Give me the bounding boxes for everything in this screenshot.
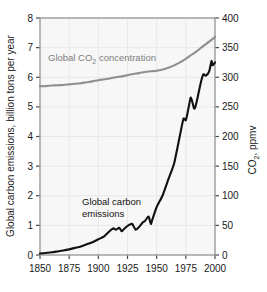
left-tick-label: 2 bbox=[27, 190, 33, 201]
left-tick-label: 8 bbox=[27, 13, 33, 24]
left-tick-label: 0 bbox=[27, 250, 33, 261]
x-tick-label: 1950 bbox=[146, 263, 169, 274]
right-axis-title: CO2, ppmv bbox=[247, 126, 260, 175]
right-tick-label: 250 bbox=[222, 101, 239, 112]
x-tick-label: 1900 bbox=[87, 263, 110, 274]
left-tick-label: 7 bbox=[27, 42, 33, 53]
right-axis-title-main: CO bbox=[247, 159, 258, 174]
x-tick-label: 1925 bbox=[116, 263, 139, 274]
right-tick-label: 200 bbox=[222, 131, 239, 142]
x-tick-label: 1850 bbox=[29, 263, 52, 274]
right-tick-label: 300 bbox=[222, 72, 239, 83]
emissions-annotation-line2: emissions bbox=[82, 208, 124, 219]
x-tick-label: 1975 bbox=[175, 263, 198, 274]
left-tick-label: 3 bbox=[27, 161, 33, 172]
left-tick-label: 6 bbox=[27, 72, 33, 83]
co2-annotation-main: Global CO bbox=[48, 52, 92, 63]
right-tick-label: 150 bbox=[222, 161, 239, 172]
x-tick-label: 2000 bbox=[204, 263, 227, 274]
right-axis-title-tail: , ppmv bbox=[247, 126, 258, 156]
emissions-annotation-line1: Global carbon bbox=[82, 196, 141, 207]
right-tick-label: 0 bbox=[222, 250, 228, 261]
co2-concentration-annotation: Global CO2 concentration bbox=[48, 52, 156, 65]
left-axis-title: Global carbon emissions, billion tons pe… bbox=[5, 34, 16, 236]
right-tick-label: 50 bbox=[222, 220, 234, 231]
right-tick-label: 400 bbox=[222, 13, 239, 24]
left-tick-label: 4 bbox=[27, 131, 33, 142]
co2-annotation-tail: concentration bbox=[96, 52, 156, 63]
chart-figure: 012345678 050100150200250300350400 18501… bbox=[0, 0, 267, 292]
left-tick-label: 5 bbox=[27, 101, 33, 112]
co2-emissions-line-chart: 012345678 050100150200250300350400 18501… bbox=[0, 0, 267, 292]
x-tick-label: 1875 bbox=[58, 263, 81, 274]
right-tick-label: 100 bbox=[222, 190, 239, 201]
left-tick-label: 1 bbox=[27, 220, 33, 231]
right-tick-label: 350 bbox=[222, 42, 239, 53]
